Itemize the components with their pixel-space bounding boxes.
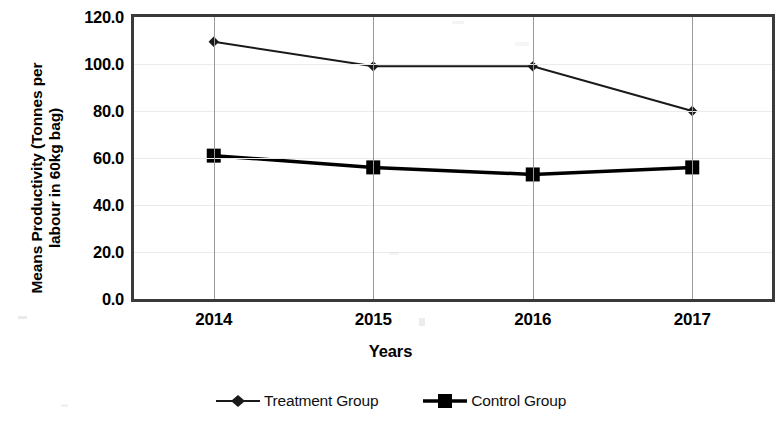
y-axis-title-line1: Means Productivity (Tonnes per — [28, 63, 46, 294]
vertical-gridline — [373, 17, 374, 299]
legend-entry-control-group[interactable]: Control Group — [422, 392, 566, 410]
scan-artifact — [61, 404, 68, 407]
y-axis-tick-label: 120.0 — [52, 8, 124, 27]
scan-artifact — [389, 252, 399, 255]
scan-artifact — [18, 316, 27, 319]
horizontal-gridline — [134, 205, 772, 206]
diamond-marker-icon — [215, 392, 261, 410]
y-axis-tick-label: 100.0 — [52, 55, 124, 74]
x-axis-tick-label: 2016 — [473, 310, 593, 330]
scan-artifact — [419, 318, 425, 326]
scan-artifact — [515, 42, 529, 46]
x-axis-title: Years — [0, 342, 781, 361]
y-axis-tick-labels: 0.020.040.060.080.0100.0120.0 — [52, 0, 124, 320]
vertical-gridline — [533, 17, 534, 299]
x-axis-tick-label: 2014 — [154, 310, 274, 330]
y-axis-tick-label: 60.0 — [52, 149, 124, 168]
horizontal-gridline — [134, 158, 772, 159]
horizontal-gridline — [134, 64, 772, 65]
chart-legend: Treatment GroupControl Group — [0, 392, 781, 410]
horizontal-gridline — [134, 111, 772, 112]
x-axis-tick-label: 2015 — [313, 310, 433, 330]
series-line-treatment-group — [214, 42, 693, 111]
plot-area — [131, 14, 775, 302]
line-chart: Means Productivity (Tonnes per labour in… — [0, 0, 781, 424]
y-axis-tick-label: 80.0 — [52, 102, 124, 121]
legend-label: Treatment Group — [264, 392, 378, 410]
legend-entry-treatment-group[interactable]: Treatment Group — [215, 392, 378, 410]
y-axis-tick-label: 20.0 — [52, 243, 124, 262]
scan-artifact — [452, 21, 464, 24]
y-axis-tick-label: 0.0 — [52, 290, 124, 309]
x-axis-tick-label: 2017 — [632, 310, 752, 330]
legend-label: Control Group — [471, 392, 566, 410]
square-marker-icon — [422, 392, 468, 410]
horizontal-gridline — [134, 252, 772, 253]
y-axis-tick-label: 40.0 — [52, 196, 124, 215]
vertical-gridline — [214, 17, 215, 299]
x-axis-tick-labels: 2014201520162017 — [131, 310, 775, 338]
vertical-gridline — [692, 17, 693, 299]
